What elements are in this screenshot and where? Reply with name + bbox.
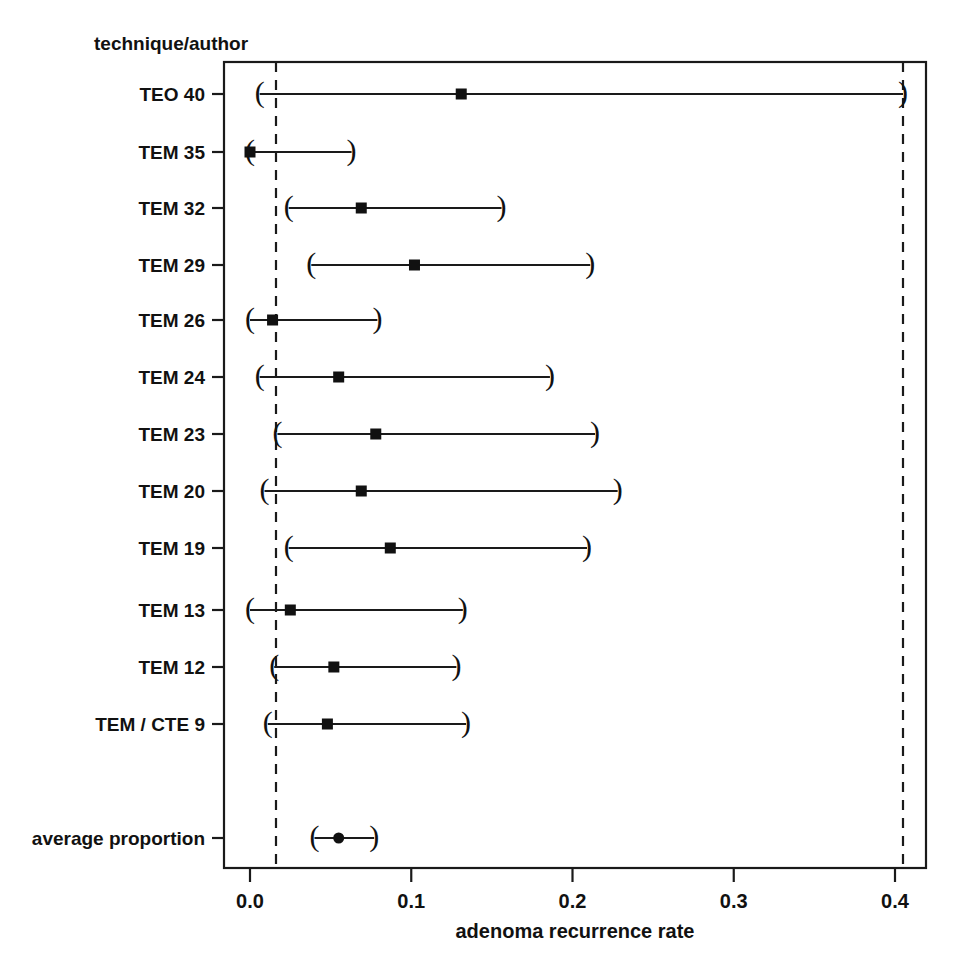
ci-upper-bracket: ) bbox=[585, 246, 595, 280]
ci-upper-bracket: ) bbox=[369, 819, 379, 853]
estimate-marker-square bbox=[456, 89, 467, 100]
ci-upper-bracket: ) bbox=[497, 189, 507, 223]
forest-row: TEM 23() bbox=[138, 415, 600, 449]
reference-lines bbox=[276, 62, 903, 868]
row-label: TEO 40 bbox=[140, 84, 205, 105]
estimate-marker-square bbox=[356, 486, 367, 497]
forest-row: TEM 13() bbox=[138, 591, 467, 625]
forest-row: TEM 19() bbox=[138, 529, 592, 563]
ci-lower-bracket: ( bbox=[306, 246, 316, 280]
forest-row: average proportion() bbox=[32, 819, 379, 853]
ci-upper-bracket: ) bbox=[461, 705, 471, 739]
row-label: TEM 19 bbox=[138, 538, 205, 559]
row-label: TEM 20 bbox=[138, 481, 205, 502]
ci-lower-bracket: ( bbox=[255, 75, 265, 109]
x-tick-label: 0.1 bbox=[397, 890, 425, 912]
row-label: TEM 13 bbox=[138, 600, 205, 621]
ci-upper-bracket: ) bbox=[347, 133, 357, 167]
estimate-marker-circle bbox=[333, 833, 344, 844]
ci-lower-bracket: ( bbox=[255, 358, 265, 392]
plot-frame bbox=[224, 62, 926, 868]
estimate-marker-square bbox=[409, 260, 420, 271]
estimate-marker-square bbox=[370, 429, 381, 440]
forest-row: TEM 32() bbox=[138, 189, 506, 223]
forest-row: TEM 29() bbox=[138, 246, 595, 280]
ci-upper-bracket: ) bbox=[372, 301, 382, 335]
ci-lower-bracket: ( bbox=[245, 591, 255, 625]
column-header-technique-author: technique/author bbox=[94, 33, 249, 54]
ci-upper-bracket: ) bbox=[613, 472, 623, 506]
x-tick: 0.3 bbox=[720, 868, 748, 912]
ci-upper-bracket: ) bbox=[590, 415, 600, 449]
estimate-marker-square bbox=[245, 147, 256, 158]
row-label: average proportion bbox=[32, 828, 205, 849]
x-tick: 0.2 bbox=[559, 868, 587, 912]
row-label: TEM 35 bbox=[138, 142, 205, 163]
row-label: TEM 32 bbox=[138, 198, 205, 219]
row-label: TEM 24 bbox=[138, 367, 205, 388]
x-axis-ticks: 0.00.10.20.30.4 bbox=[236, 868, 910, 912]
ci-lower-bracket: ( bbox=[284, 529, 294, 563]
ci-upper-bracket: ) bbox=[898, 75, 908, 109]
x-tick-label: 0.3 bbox=[720, 890, 748, 912]
ci-lower-bracket: ( bbox=[260, 472, 270, 506]
forest-row: TEM 26() bbox=[138, 301, 382, 335]
estimate-marker-square bbox=[385, 543, 396, 554]
estimate-marker-square bbox=[322, 719, 333, 730]
ci-lower-bracket: ( bbox=[310, 819, 320, 853]
forest-rows: TEO 40()TEM 35()TEM 32()TEM 29()TEM 26()… bbox=[32, 75, 908, 853]
ci-lower-bracket: ( bbox=[245, 301, 255, 335]
x-tick-label: 0.4 bbox=[881, 890, 910, 912]
estimate-marker-square bbox=[267, 315, 278, 326]
estimate-marker-square bbox=[333, 372, 344, 383]
estimate-marker-square bbox=[285, 605, 296, 616]
forest-row: TEM 12() bbox=[138, 648, 461, 682]
forest-row: TEM 35() bbox=[138, 133, 356, 167]
ci-upper-bracket: ) bbox=[451, 648, 461, 682]
forest-row: TEM / CTE 9() bbox=[95, 705, 471, 739]
row-label: TEM / CTE 9 bbox=[95, 714, 205, 735]
x-tick: 0.0 bbox=[236, 868, 264, 912]
ci-upper-bracket: ) bbox=[582, 529, 592, 563]
ci-lower-bracket: ( bbox=[272, 415, 282, 449]
row-label: TEM 26 bbox=[138, 310, 205, 331]
row-label: TEM 12 bbox=[138, 657, 205, 678]
estimate-marker-square bbox=[356, 203, 367, 214]
ci-upper-bracket: ) bbox=[545, 358, 555, 392]
row-label: TEM 29 bbox=[138, 255, 205, 276]
x-tick-label: 0.0 bbox=[236, 890, 264, 912]
row-label: TEM 23 bbox=[138, 424, 205, 445]
ci-upper-bracket: ) bbox=[458, 591, 468, 625]
ci-lower-bracket: ( bbox=[284, 189, 294, 223]
ci-lower-bracket: ( bbox=[263, 705, 273, 739]
estimate-marker-square bbox=[328, 662, 339, 673]
ci-lower-bracket: ( bbox=[269, 648, 279, 682]
forest-row: TEM 20() bbox=[138, 472, 622, 506]
x-axis-label: adenoma recurrence rate bbox=[455, 920, 694, 942]
x-tick: 0.1 bbox=[397, 868, 425, 912]
forest-row: TEM 24() bbox=[138, 358, 554, 392]
x-tick: 0.4 bbox=[881, 868, 910, 912]
forest-row: TEO 40() bbox=[140, 75, 909, 109]
forest-plot-svg: technique/author TEO 40()TEM 35()TEM 32(… bbox=[0, 0, 977, 971]
x-tick-label: 0.2 bbox=[559, 890, 587, 912]
forest-plot-figure: technique/author TEO 40()TEM 35()TEM 32(… bbox=[0, 0, 977, 971]
